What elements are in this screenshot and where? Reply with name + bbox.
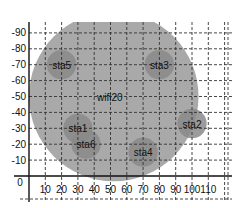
x-tick-label: 60 [121, 184, 133, 195]
station-label: sta5 [52, 60, 71, 71]
y-tick-label: -80 [12, 43, 27, 54]
y-tick-label: -20 [12, 139, 27, 150]
y-tick-label: -50 [12, 91, 27, 102]
y-tick-label: -90 [12, 27, 27, 38]
station-label: sta4 [134, 147, 153, 158]
x-tick-label: 40 [89, 184, 101, 195]
x-tick-label: 30 [72, 184, 84, 195]
x-tick-label: 50 [105, 184, 117, 195]
x-tick-label: 10 [40, 184, 52, 195]
y-tick-label: -10 [12, 155, 27, 166]
station-label: sta6 [77, 139, 96, 150]
y-tick-label: -40 [12, 107, 27, 118]
y-tick-label: -30 [12, 123, 27, 134]
x-tick-label: 110 [200, 184, 216, 195]
x-tick-label: 80 [154, 184, 166, 195]
x-tick-label: 90 [170, 184, 182, 195]
x-tick-label: 20 [56, 184, 68, 195]
x-tick-label: 70 [138, 184, 150, 195]
x-tick-label: 100 [184, 184, 201, 195]
mininet-wifi-graph: -10-20-30-40-50-60-70-80-900102030405060… [0, 0, 244, 208]
x-tick-label: 0 [17, 177, 23, 188]
station-label: sta1 [68, 123, 87, 134]
station-label: sta3 [150, 60, 169, 71]
y-tick-label: -70 [12, 59, 27, 70]
station-label: sta2 [183, 119, 202, 130]
ap-label: wifi20 [96, 92, 123, 103]
y-tick-label: -60 [12, 75, 27, 86]
